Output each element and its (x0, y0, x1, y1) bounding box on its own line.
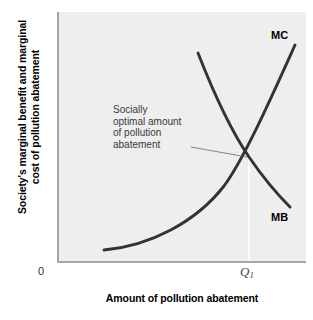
annotation-line-2: optimal amount (113, 116, 181, 128)
y-axis-title: Society's marginal benefit and marginal … (16, 2, 42, 232)
mb-curve-label: MB (271, 211, 289, 223)
annotation-line-4: abatement (113, 139, 181, 151)
y-axis-title-line-2: cost of pollution abatement (29, 2, 42, 232)
annotation-line-3: of pollution (113, 127, 181, 139)
y-axis-title-line-1: Society's marginal benefit and marginal (16, 2, 29, 232)
plot-area (57, 12, 306, 263)
origin-tick-label: 0 (38, 265, 44, 277)
x-axis-title: Amount of pollution abatement (57, 292, 307, 304)
q1-tick-label: Q1 (240, 264, 254, 280)
q1-subscript: 1 (249, 270, 254, 280)
annotation-line-1: Socially (113, 104, 181, 116)
mc-curve-label: MC (271, 29, 289, 41)
q1-base: Q (240, 264, 249, 279)
figure-container: Society's marginal benefit and marginal … (0, 0, 313, 320)
socially-optimal-annotation: Socially optimal amount of pollution aba… (113, 104, 181, 150)
